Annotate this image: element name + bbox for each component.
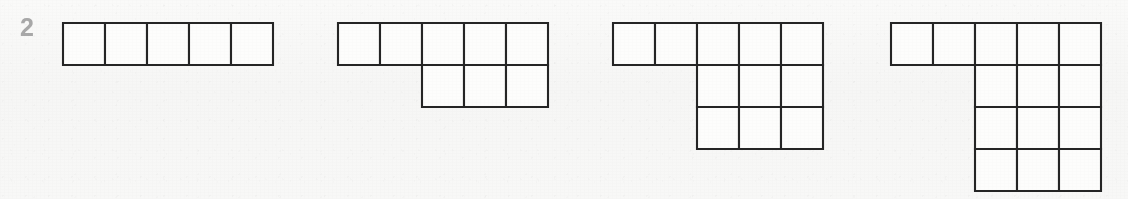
- cell: [189, 23, 231, 65]
- page-canvas: 2: [0, 0, 1128, 199]
- diagram-2: [336, 21, 550, 109]
- cell: [781, 23, 823, 65]
- cell: [933, 23, 975, 65]
- diagram-4: [889, 21, 1103, 193]
- cell: [781, 107, 823, 149]
- cell: [781, 65, 823, 107]
- cell: [739, 107, 781, 149]
- cell: [613, 23, 655, 65]
- cell: [380, 23, 422, 65]
- cell: [975, 107, 1017, 149]
- cell: [422, 23, 464, 65]
- cell: [975, 65, 1017, 107]
- cell: [655, 23, 697, 65]
- cell: [63, 23, 105, 65]
- cell: [739, 23, 781, 65]
- cell: [231, 23, 273, 65]
- cell: [1059, 65, 1101, 107]
- cell: [697, 65, 739, 107]
- diagram-1-svg: [61, 21, 275, 67]
- cell: [1059, 107, 1101, 149]
- cell: [697, 23, 739, 65]
- cell: [975, 23, 1017, 65]
- cell: [506, 65, 548, 107]
- cell: [422, 65, 464, 107]
- cell: [506, 23, 548, 65]
- diagram-3: [611, 21, 825, 151]
- cell: [464, 23, 506, 65]
- cell: [1059, 149, 1101, 191]
- cell: [464, 65, 506, 107]
- cell: [697, 107, 739, 149]
- figure-index-label: 2: [20, 15, 34, 40]
- diagram-2-svg: [336, 21, 550, 109]
- cell: [1017, 65, 1059, 107]
- cell: [739, 65, 781, 107]
- diagram-4-svg: [889, 21, 1103, 193]
- cell: [891, 23, 933, 65]
- diagram-3-svg: [611, 21, 825, 151]
- cell: [105, 23, 147, 65]
- cell: [1017, 23, 1059, 65]
- cell: [1017, 149, 1059, 191]
- diagram-1: [61, 21, 275, 67]
- cell: [1017, 107, 1059, 149]
- cell: [147, 23, 189, 65]
- cell: [338, 23, 380, 65]
- cell: [1059, 23, 1101, 65]
- cell: [975, 149, 1017, 191]
